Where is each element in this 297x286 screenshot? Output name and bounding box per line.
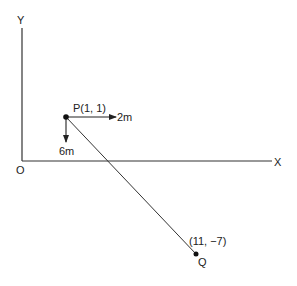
coordinate-diagram: Y X O 2m 6m P(1, 1) (11, −7) Q [0,0,297,286]
segment-pq [66,117,196,254]
point-p-dot [63,114,69,120]
y-axis-label: Y [17,14,25,26]
origin-label: O [16,164,25,176]
vector-south-label: 6m [59,145,74,157]
point-q-label: Q [198,256,207,268]
vector-east-label: 2m [117,111,132,123]
point-p-label: P(1, 1) [73,102,106,114]
x-axis-label: X [274,156,282,168]
point-q-coords-label: (11, −7) [189,235,226,247]
